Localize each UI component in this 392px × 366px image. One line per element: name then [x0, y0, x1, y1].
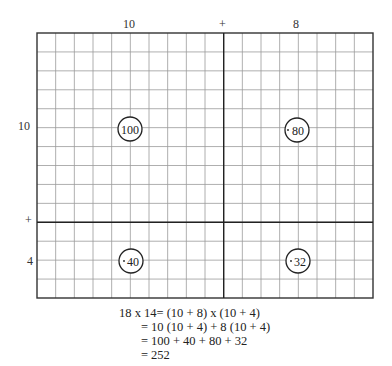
grid-lines [37, 33, 373, 298]
region-value: 100 [121, 123, 139, 137]
region-top-right: 80 [285, 118, 309, 142]
region-top-left: 100 [118, 117, 142, 141]
dot-icon [287, 129, 289, 131]
equation-line: = 252 [119, 348, 270, 362]
equation-line: = 10 (10 + 4) + 8 (10 + 4) [119, 320, 270, 334]
region-value: 80 [292, 124, 304, 138]
side-label-bottom: 4 [27, 255, 33, 267]
top-label-plus: + [219, 18, 226, 30]
region-value: 32 [294, 255, 306, 269]
top-label-right: 8 [293, 18, 299, 30]
equation-line: 18 x 14= (10 + 8) x (10 + 4) [119, 306, 270, 320]
equation: 18 x 14= (10 + 8) x (10 + 4) = 10 (10 + … [119, 306, 270, 362]
side-label-top: 10 [18, 120, 30, 132]
top-label-left: 10 [123, 18, 135, 30]
region-bottom-right: 32 [286, 249, 310, 273]
dot-icon [123, 260, 125, 262]
dot-icon [290, 260, 292, 262]
side-label-plus: + [25, 214, 32, 226]
equation-line: = 100 + 40 + 80 + 32 [119, 334, 270, 348]
region-bottom-left: 40 [119, 249, 143, 273]
region-value: 40 [127, 255, 139, 269]
